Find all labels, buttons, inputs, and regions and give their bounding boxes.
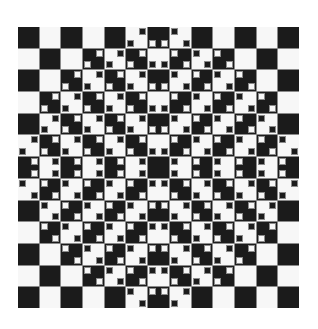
board-cell	[40, 49, 61, 70]
checkerboard-illusion	[18, 27, 299, 308]
board-cell	[257, 92, 278, 113]
corner-marker	[118, 72, 123, 77]
corner-marker	[85, 127, 90, 132]
corner-marker	[53, 214, 58, 219]
board-cell	[61, 287, 82, 308]
corner-marker	[63, 84, 68, 89]
corner-marker	[194, 137, 199, 142]
corner-marker	[150, 268, 155, 273]
corner-marker	[97, 94, 102, 99]
corner-marker	[215, 51, 220, 56]
board-cell	[18, 135, 39, 156]
board-cell	[257, 27, 278, 48]
corner-marker	[118, 279, 123, 284]
board-cell	[170, 222, 191, 243]
corner-marker	[280, 193, 285, 198]
corner-marker	[249, 127, 254, 132]
board-cell	[192, 135, 213, 156]
corner-marker	[184, 268, 189, 273]
board-cell	[126, 70, 147, 91]
corner-marker	[259, 137, 264, 142]
board-cell	[257, 49, 278, 70]
board-cell	[40, 70, 61, 91]
corner-marker	[237, 94, 242, 99]
board-cell	[192, 179, 213, 200]
corner-marker	[75, 171, 80, 176]
corner-marker	[205, 149, 210, 154]
corner-marker	[172, 29, 177, 34]
corner-marker	[150, 246, 155, 251]
corner-marker	[75, 116, 80, 121]
board-cell	[170, 49, 191, 70]
corner-marker	[215, 279, 220, 284]
corner-marker	[53, 171, 58, 176]
corner-marker	[42, 127, 47, 132]
corner-marker	[184, 84, 189, 89]
board-cell	[192, 49, 213, 70]
board-cell	[126, 157, 147, 178]
board-cell	[40, 92, 61, 113]
board-cell	[83, 266, 104, 287]
corner-marker	[107, 224, 112, 229]
board-cell	[61, 135, 82, 156]
corner-marker	[140, 29, 145, 34]
corner-marker	[118, 236, 123, 241]
corner-marker	[150, 84, 155, 89]
board-cell	[105, 27, 126, 48]
board-cell	[148, 201, 169, 222]
board-cell	[40, 179, 61, 200]
corner-marker	[32, 193, 37, 198]
corner-marker	[128, 62, 133, 67]
corner-marker	[205, 181, 210, 186]
corner-marker	[249, 246, 254, 251]
board-cell	[170, 114, 191, 135]
corner-marker	[227, 127, 232, 132]
board-cell	[105, 201, 126, 222]
corner-marker	[205, 62, 210, 67]
board-cell	[278, 179, 299, 200]
board-cell	[213, 27, 234, 48]
corner-marker	[227, 84, 232, 89]
board-cell	[61, 244, 82, 265]
corner-marker	[215, 193, 220, 198]
corner-marker	[205, 84, 210, 89]
corner-marker	[20, 181, 25, 186]
board-cell	[192, 266, 213, 287]
board-cell	[18, 287, 39, 308]
board-cell	[126, 287, 147, 308]
corner-marker	[184, 224, 189, 229]
corner-marker	[63, 246, 68, 251]
corner-marker	[85, 203, 90, 208]
board-cell	[126, 244, 147, 265]
corner-marker	[259, 171, 264, 176]
board-cell	[105, 157, 126, 178]
board-cell	[105, 244, 126, 265]
corner-marker	[63, 106, 68, 111]
corner-marker	[184, 106, 189, 111]
board-cell	[61, 49, 82, 70]
corner-marker	[140, 301, 145, 306]
corner-marker	[97, 116, 102, 121]
board-cell	[148, 244, 169, 265]
board-cell	[170, 135, 191, 156]
board-cell	[148, 114, 169, 135]
board-cell	[213, 157, 234, 178]
corner-marker	[128, 246, 133, 251]
corner-marker	[194, 171, 199, 176]
corner-marker	[140, 72, 145, 77]
corner-marker	[150, 289, 155, 294]
corner-marker	[172, 214, 177, 219]
board-cell	[18, 244, 39, 265]
corner-marker	[205, 106, 210, 111]
corner-marker	[172, 51, 177, 56]
corner-marker	[75, 193, 80, 198]
corner-marker	[150, 106, 155, 111]
corner-marker	[140, 51, 145, 56]
board-cell	[105, 70, 126, 91]
board-cell	[213, 114, 234, 135]
board-cell	[126, 266, 147, 287]
corner-marker	[249, 203, 254, 208]
corner-marker	[162, 203, 167, 208]
corner-marker	[249, 181, 254, 186]
board-cell	[105, 135, 126, 156]
